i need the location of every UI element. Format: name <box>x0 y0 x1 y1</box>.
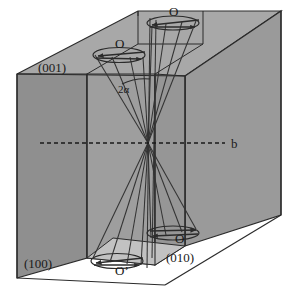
face-label-100: (100) <box>24 256 52 271</box>
melatope-label-top-left: O <box>115 36 124 51</box>
central-slab-face <box>87 74 155 265</box>
crystal-optics-figure: (001) (100) (010) O O O’ O 2α b <box>0 0 295 296</box>
figure-canvas: (001) (100) (010) O O O’ O 2α b <box>0 0 295 296</box>
melatope-label-bottom-right: O <box>175 231 184 246</box>
face-label-001: (001) <box>38 60 66 75</box>
face-label-010: (010) <box>166 250 194 265</box>
axis-label-b: b <box>231 136 238 151</box>
face-100-plane <box>17 74 87 278</box>
base-edge-front <box>17 278 165 285</box>
angle-label-2alpha: 2α <box>118 83 130 95</box>
melatope-label-top-right: O <box>169 4 178 19</box>
melatope-label-bottom-left: O’ <box>115 263 129 278</box>
